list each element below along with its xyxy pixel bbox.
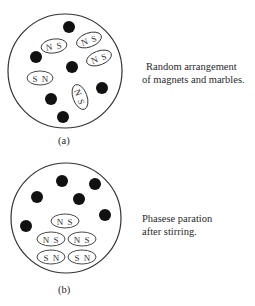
- marble-icon: [73, 193, 85, 205]
- magnet: SN: [27, 71, 53, 85]
- panel-a-caption-line-2: of magnets and marbles.: [142, 73, 245, 86]
- magnet: NS: [74, 29, 103, 51]
- marble-icon: [63, 21, 75, 33]
- magnet-outline: [74, 29, 103, 51]
- panel-b-caption: Phasese paration after stirring.: [142, 212, 212, 238]
- marble-icon: [20, 220, 32, 232]
- marble-icon: [96, 82, 108, 94]
- magnet: NS: [40, 37, 68, 54]
- magnet-pole-right: N: [42, 74, 49, 84]
- magnet-pole-right: N: [84, 253, 91, 263]
- magnet-pole-right: S: [53, 235, 58, 245]
- marble-icon: [99, 209, 111, 221]
- panel-b-caption-line-1: Phasese paration: [142, 212, 212, 225]
- panel-b-label: (b): [58, 284, 70, 295]
- marble-icon: [57, 111, 69, 123]
- magnet: NS: [69, 82, 91, 111]
- magnet-outline: [68, 250, 96, 264]
- magnet-outline: [37, 250, 65, 264]
- magnet-outline: [68, 232, 96, 246]
- magnet-pole-left: S: [32, 74, 37, 84]
- magnet-outline: [69, 82, 91, 111]
- marble-icon: [56, 175, 68, 187]
- panel-a-caption: Random arrangement of magnets and marble…: [146, 60, 245, 86]
- magnet-pole-left: N: [57, 217, 64, 227]
- magnet-pole-right: S: [67, 217, 72, 227]
- magnet: NS: [37, 232, 65, 246]
- panel-a-caption-line-1: Random arrangement: [146, 60, 245, 73]
- magnet-outline: [51, 214, 79, 228]
- marble-icon: [30, 51, 42, 63]
- magnet-pole-left: N: [74, 235, 81, 245]
- diagram-figure: NSNSNSSNNS NSNSNSSNSN: [0, 0, 255, 306]
- magnet-outline: [27, 71, 53, 85]
- magnet: SN: [68, 250, 96, 264]
- marble-icon: [45, 93, 57, 105]
- magnet-pole-left: N: [43, 235, 50, 245]
- magnet-outline: [37, 232, 65, 246]
- magnet: NS: [51, 214, 79, 228]
- marble-icon: [31, 191, 43, 203]
- magnet: NS: [68, 232, 96, 246]
- marble-icon: [66, 61, 78, 73]
- panel-a-container: NSNSNSSNNS: [8, 14, 122, 128]
- magnet-pole-left: S: [74, 253, 79, 263]
- panel-b-caption-line-2: after stirring.: [142, 225, 212, 238]
- magnet-outline: [40, 37, 68, 54]
- magnet: NS: [84, 47, 113, 69]
- marble-icon: [89, 178, 101, 190]
- magnet-pole-right: S: [84, 235, 89, 245]
- magnet-pole-left: S: [43, 253, 48, 263]
- panel-b-container: NSNSNSSNSN: [11, 163, 121, 273]
- magnet-outline: [84, 47, 113, 69]
- panel-a-label: (a): [58, 135, 70, 146]
- magnet: SN: [37, 250, 65, 264]
- magnet-pole-right: N: [53, 253, 60, 263]
